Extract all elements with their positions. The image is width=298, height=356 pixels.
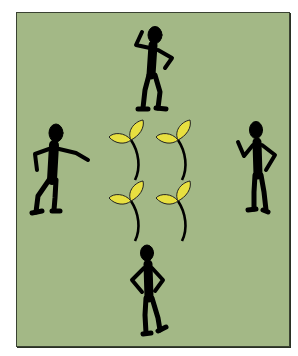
seedling: [109, 120, 143, 180]
illustration-canvas: [0, 0, 298, 356]
stick-figure-left: [32, 124, 88, 213]
stick-figure-right: [238, 122, 275, 213]
stick-figure-bottom: [132, 245, 166, 334]
seedling: [156, 181, 190, 241]
seedling: [109, 181, 143, 241]
stick-figure-top: [136, 27, 172, 110]
seedling: [156, 120, 190, 180]
